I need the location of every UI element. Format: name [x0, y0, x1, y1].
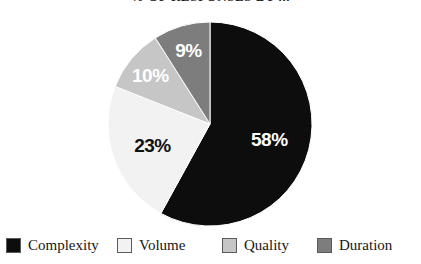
legend-swatch-complexity: [6, 238, 21, 253]
legend-item-duration[interactable]: Duration: [317, 234, 392, 256]
pie-chart-figure: % OF RESPONSES BY ... 58%23%10%9% Comple…: [0, 0, 421, 264]
legend-swatch-volume: [117, 238, 132, 253]
legend-label-complexity: Complexity: [28, 238, 99, 253]
legend-label-volume: Volume: [139, 238, 185, 253]
pie-slice-group: [108, 22, 312, 226]
legend-swatch-quality: [222, 238, 237, 253]
chart-legend: ComplexityVolumeQualityDuration: [0, 234, 421, 260]
pie-svg: 58%23%10%9%: [107, 21, 313, 227]
pie-slice-label-volume: 23%: [134, 135, 171, 156]
pie-slice-label-duration: 9%: [175, 40, 202, 61]
pie-slice-label-quality: 10%: [132, 65, 169, 86]
legend-swatch-duration: [317, 238, 332, 253]
legend-item-complexity[interactable]: Complexity: [6, 234, 99, 256]
pie-chart-plot-area: 58%23%10%9%: [107, 21, 313, 227]
pie-slice-label-complexity: 58%: [251, 129, 288, 150]
legend-label-duration: Duration: [339, 238, 392, 253]
legend-label-quality: Quality: [244, 238, 289, 253]
chart-title: % OF RESPONSES BY ...: [0, 0, 421, 5]
legend-item-quality[interactable]: Quality: [222, 234, 289, 256]
legend-item-volume[interactable]: Volume: [117, 234, 185, 256]
